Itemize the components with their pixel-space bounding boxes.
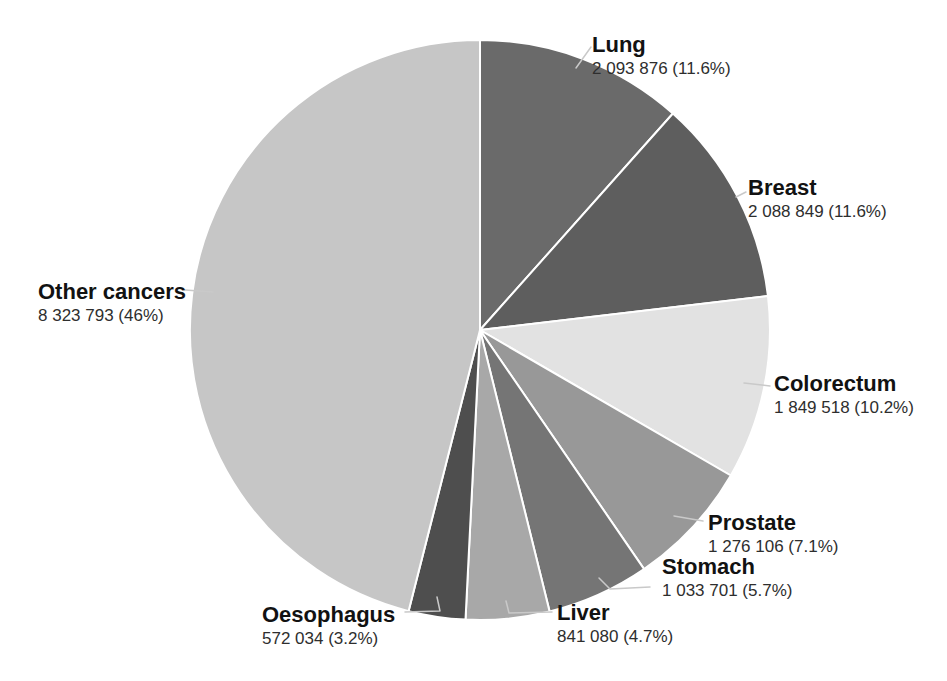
pie-chart-figure: Lung2 093 876 (11.6%)Breast2 088 849 (11… bbox=[0, 0, 947, 681]
pie-chart bbox=[0, 0, 947, 681]
